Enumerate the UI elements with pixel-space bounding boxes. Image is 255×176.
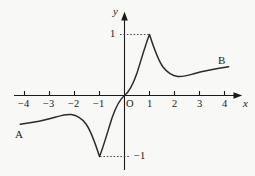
x-tick-label-neg1: −1 [93, 99, 104, 110]
endpoint-a-label: A [15, 129, 23, 140]
y-tick-label-1: 1 [110, 29, 115, 40]
x-axis-label: x [243, 98, 248, 109]
x-tick-label-neg3: −3 [43, 99, 54, 110]
x-tick-label-3: 3 [197, 99, 202, 110]
x-tick-label-2: 2 [172, 99, 177, 110]
x-tick-label-neg4: −4 [18, 99, 29, 110]
x-tick-label-1: 1 [147, 99, 152, 110]
endpoint-b-label: B [218, 55, 225, 66]
y-axis-label: y [113, 6, 118, 17]
x-tick-label-neg2: −2 [68, 99, 79, 110]
graph-figure: y x O −4 −3 −2 −1 1 2 3 4 1 −1 A B [0, 0, 255, 176]
x-tick-label-4: 4 [222, 99, 227, 110]
y-tick-label-neg1: −1 [134, 151, 145, 162]
origin-label: O [126, 99, 134, 110]
plot-canvas [0, 0, 255, 176]
